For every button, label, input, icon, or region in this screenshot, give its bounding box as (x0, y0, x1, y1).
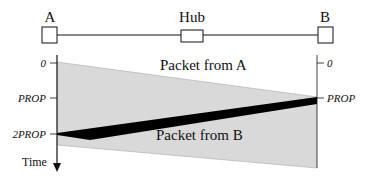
tick-left-prop: PROP (17, 92, 46, 104)
time-label: Time (22, 155, 47, 169)
tick-left-0: 0 (41, 57, 47, 69)
tick-right-prop: PROP (326, 92, 355, 104)
node-a-box (42, 27, 57, 43)
collision-timing-diagram: A Hub B 0 PROP 2PROP 0 PROP Time Packet … (0, 0, 371, 180)
hub-label: Hub (179, 9, 205, 25)
node-a-label: A (45, 9, 56, 25)
packet-a-label: Packet from A (160, 57, 247, 73)
time-arrow-icon (53, 163, 61, 172)
hub-box (181, 30, 203, 42)
tick-right-0: 0 (327, 57, 333, 69)
node-b-box (318, 27, 333, 43)
tick-left-2prop: 2PROP (12, 128, 46, 140)
node-b-label: B (320, 9, 330, 25)
packet-b-label: Packet from B (156, 127, 243, 143)
